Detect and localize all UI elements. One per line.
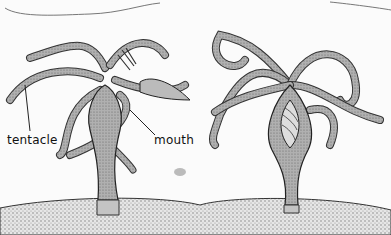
mouth-leader-line [130, 110, 155, 135]
left-hydra [10, 43, 190, 215]
tentacle-leader-line [25, 85, 30, 131]
illustration [0, 0, 391, 235]
page-edge-line [5, 2, 391, 15]
label-mouth: mouth [154, 133, 194, 147]
substrate [0, 198, 391, 235]
smudge [174, 168, 186, 176]
hydra-diagram: tentacle mouth [0, 0, 391, 235]
label-tentacle: tentacle [7, 133, 58, 147]
right-hydra [213, 35, 380, 213]
